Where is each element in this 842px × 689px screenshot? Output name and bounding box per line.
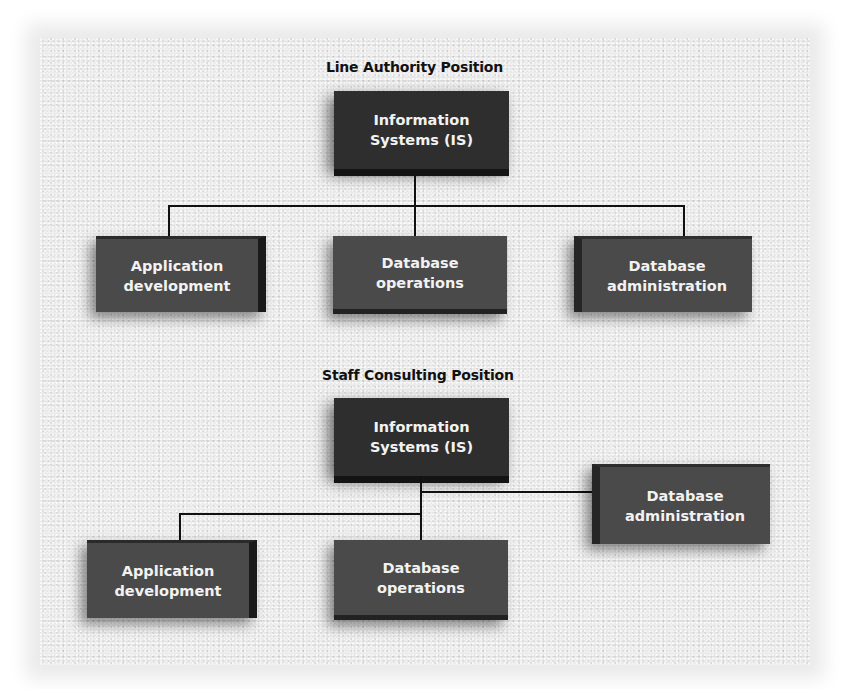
node-label-line2: operations <box>377 578 465 598</box>
node-label-line1: Database <box>376 253 464 273</box>
staff-consulting-title: Staff Consulting Position <box>322 367 514 383</box>
line-authority-database-administration-node: Database administration <box>574 236 752 312</box>
connector-line <box>414 205 416 238</box>
staff-database-operations-node: Database operations <box>334 540 508 620</box>
connector-line <box>179 513 421 515</box>
line-authority-title: Line Authority Position <box>326 59 503 75</box>
staff-connector-line <box>421 491 593 493</box>
line-authority-root-node: Information Systems (IS) <box>334 91 509 169</box>
staff-consulting-root-node: Information Systems (IS) <box>334 398 509 476</box>
connector-line <box>414 176 416 206</box>
connector-line <box>683 205 685 238</box>
root-node-label-line2: Systems (IS) <box>370 130 473 150</box>
line-authority-database-operations-node: Database operations <box>333 236 507 314</box>
node-label-line2: administration <box>625 506 745 526</box>
root-node-label-line2: Systems (IS) <box>370 437 473 457</box>
connector-line <box>179 513 181 543</box>
node-label-line1: Database <box>377 558 465 578</box>
node-label-line1: Database <box>607 256 727 276</box>
node-label-line1: Application <box>123 256 230 276</box>
root-node-label-line1: Information <box>370 110 473 130</box>
connector-line <box>420 476 422 544</box>
node-label-line2: operations <box>376 273 464 293</box>
node-label-line2: development <box>114 581 221 601</box>
line-authority-application-development-node: Application development <box>96 236 266 312</box>
node-label-line2: development <box>123 276 230 296</box>
connector-line <box>168 205 684 207</box>
node-label-line1: Database <box>625 486 745 506</box>
root-node-label-line1: Information <box>370 417 473 437</box>
staff-database-administration-node: Database administration <box>592 464 770 544</box>
node-label-line2: administration <box>607 276 727 296</box>
connector-line <box>168 205 170 238</box>
node-label-line1: Application <box>114 561 221 581</box>
staff-application-development-node: Application development <box>87 540 257 618</box>
